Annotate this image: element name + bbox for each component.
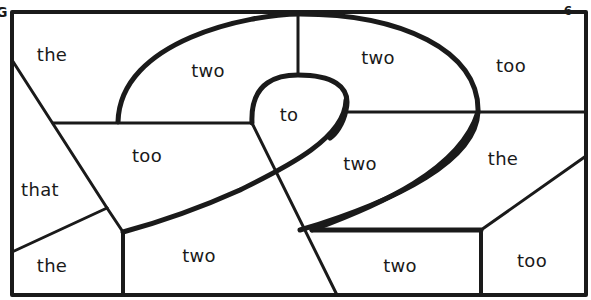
region-label: two [191, 60, 225, 81]
region-label: too [517, 250, 547, 271]
region-label: the [37, 44, 67, 65]
region-label: that [21, 179, 59, 200]
region-label: too [496, 55, 526, 76]
region-label: the [488, 148, 518, 169]
region-label: too [132, 145, 162, 166]
region-label: two [343, 153, 377, 174]
region-label: to [280, 104, 299, 125]
region-label: the [37, 255, 67, 276]
region-label: two [182, 245, 216, 266]
color-by-word-puzzle: G -6- [0, 0, 591, 300]
region-label: two [361, 47, 395, 68]
region-label: two [383, 255, 417, 276]
